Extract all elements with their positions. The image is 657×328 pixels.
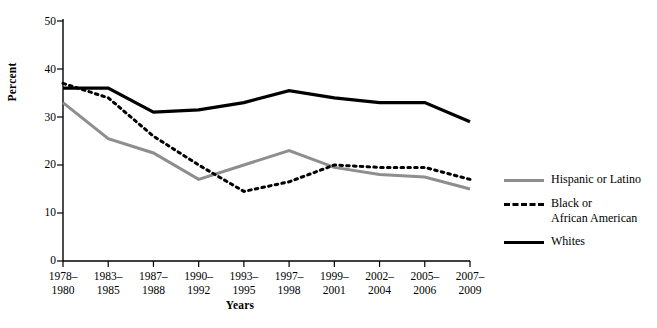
chart-figure: Percent 50 40 30 20 10 0 1978– 19801983–… [0,0,657,328]
legend-line-black-solid-icon [504,241,544,248]
x-axis-title: Years [0,299,480,311]
x-tick-label-6: 1999– 2001 [308,270,360,297]
x-tick-label-7: 2002– 2004 [354,270,406,297]
legend-item-hispanic-or-latino: Hispanic or Latino [504,172,654,191]
legend-label-whites: Whites [551,234,585,249]
series-whites [63,88,470,122]
chart-legend: Hispanic or Latino Black or African Amer… [504,172,654,258]
y-axis-ticks [57,21,63,261]
x-tick-label-9: 2007– 2009 [444,270,496,297]
x-tick-label-5: 1997– 1998 [263,270,315,297]
legend-label-black-or-african-american: Black or African American [551,196,637,225]
x-tick-label-4: 1993– 1995 [218,270,270,297]
series-hispanic-or-latino [63,103,470,189]
legend-label-hispanic-or-latino: Hispanic or Latino [551,172,641,187]
legend-line-gray-solid-icon [504,179,544,186]
x-tick-label-2: 1987– 1988 [127,270,179,297]
x-tick-label-8: 2005– 2006 [399,270,451,297]
x-axis-ticks [63,261,470,267]
x-tick-label-0: 1978– 1980 [37,270,89,297]
legend-item-whites: Whites [504,234,654,253]
legend-line-black-dashed-icon [504,203,544,210]
legend-item-black-or-african-american: Black or African American [504,196,654,229]
x-tick-label-1: 1983– 1985 [82,270,134,297]
x-tick-label-3: 1990– 1992 [173,270,225,297]
